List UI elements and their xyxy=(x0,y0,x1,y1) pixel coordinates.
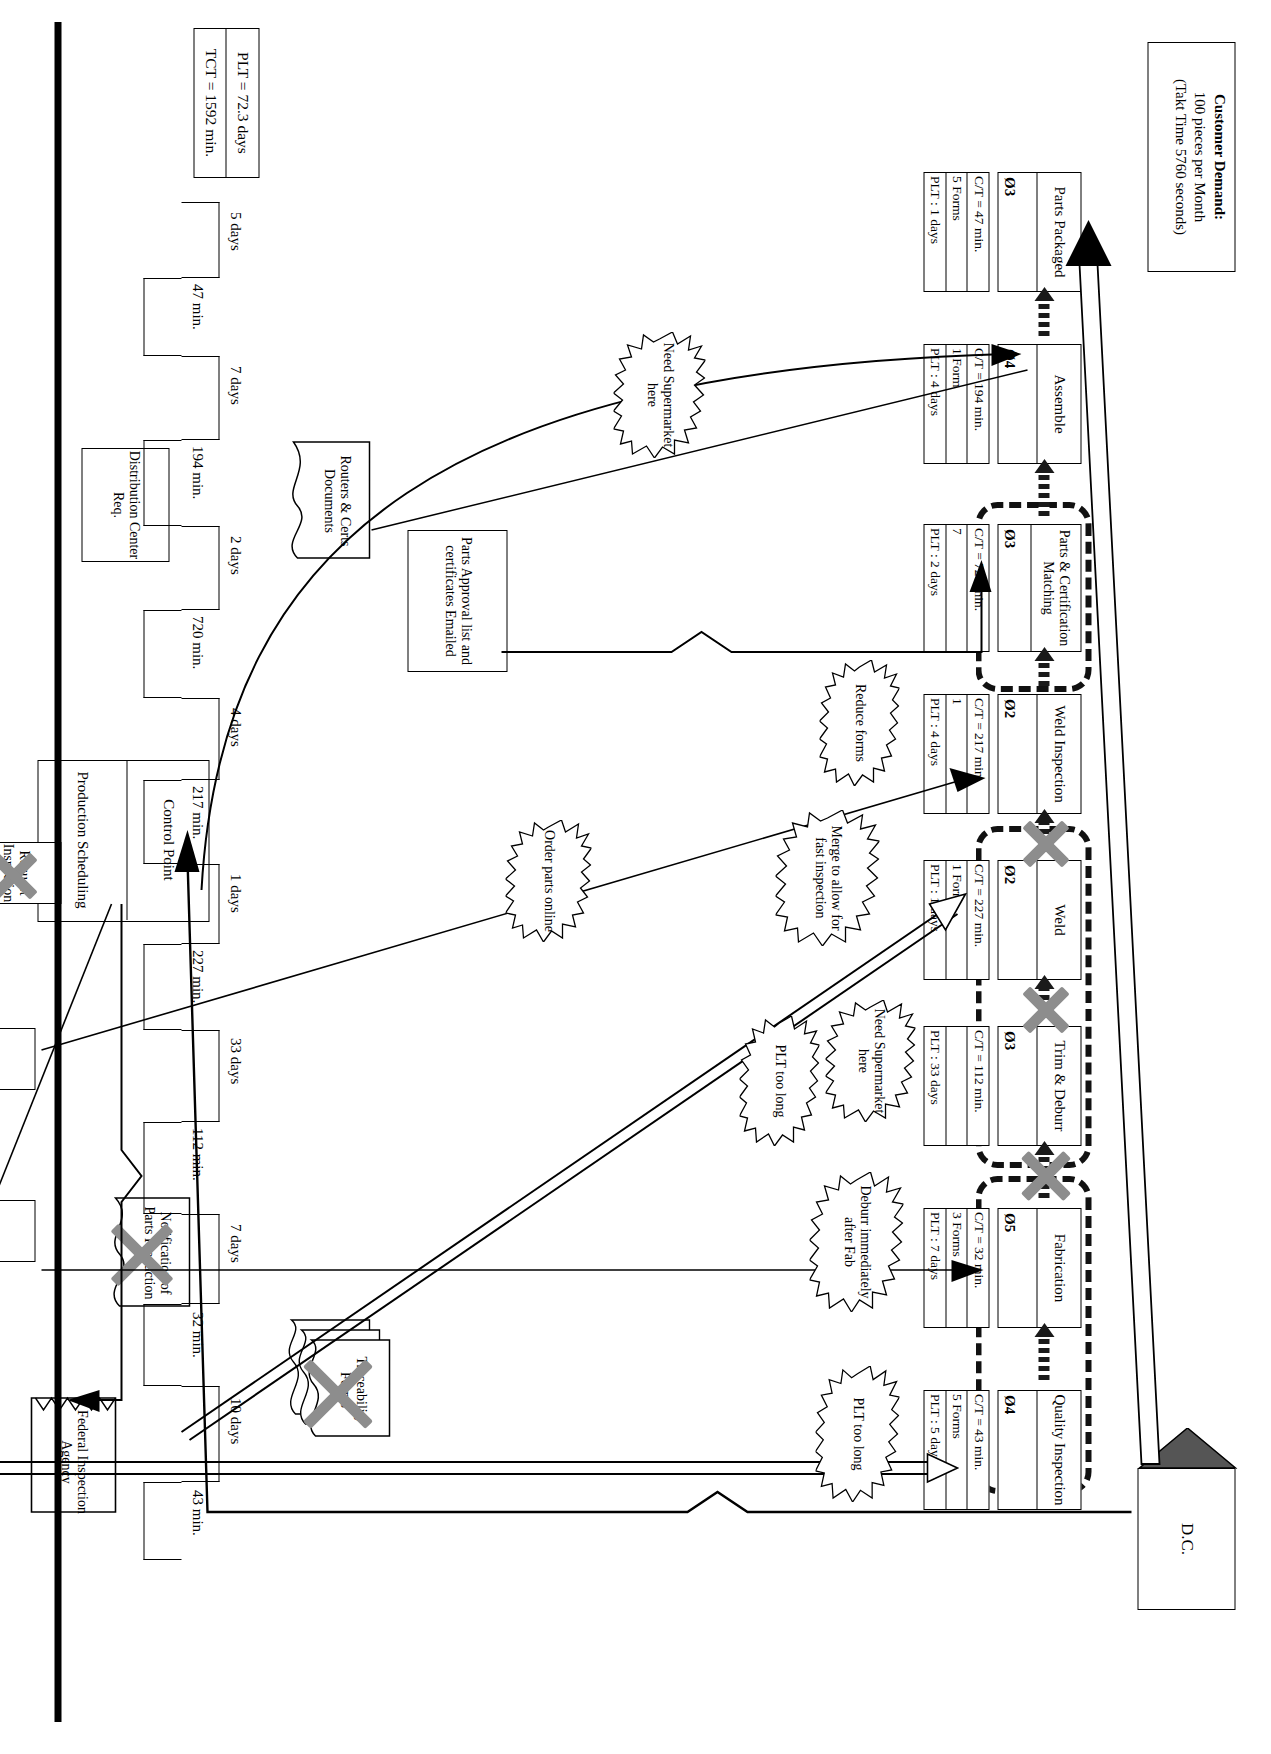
timeline-nva-seg-3 xyxy=(181,864,219,944)
kaizen-label: PLT too long xyxy=(849,1389,865,1478)
timeline-va-seg-1 xyxy=(143,1304,181,1386)
kaizen-burst-plt-too-long-1: PLT too long xyxy=(815,1366,899,1502)
data-ct: C/T = 47 min. xyxy=(966,173,988,291)
timeline-nva-seg-1 xyxy=(181,1214,219,1304)
data-box-parts-packaged: C/T = 47 min. 5 Forms PLT : 1 days xyxy=(923,172,989,292)
kaizen-label: Need Supermarket here xyxy=(854,1000,885,1122)
timeline-va-seg-5 xyxy=(143,610,181,698)
data-forms: 5 Forms xyxy=(945,173,967,291)
timeline-va-label-5: 720 min. xyxy=(188,616,205,669)
timeline-va-label-0: 43 min. xyxy=(188,1490,205,1536)
timeline-nva-label-6: 7 days xyxy=(226,366,243,405)
timeline-nva-label-5: 2 days xyxy=(226,536,243,575)
customer-demand-line1: 100 pieces per Month xyxy=(1192,92,1208,222)
timeline-nva-seg-2 xyxy=(181,1030,219,1122)
timeline-nva-label-0: 10 days xyxy=(226,1398,243,1444)
timeline-nva-seg-0 xyxy=(181,1386,219,1482)
vsm-page: Customer Demand: 100 pieces per Month (T… xyxy=(0,0,1271,1754)
timeline-va-seg-6 xyxy=(143,440,181,526)
timeline-nva-seg-7 xyxy=(181,202,219,278)
timeline-va-label-4: 217 min. xyxy=(188,786,205,839)
timeline-nva-seg-5 xyxy=(181,526,219,610)
timeline-va-label-3: 227 min. xyxy=(188,950,205,1003)
timeline-nva-label-1: 7 days xyxy=(226,1224,243,1263)
kaizen-burst-deburr-after-fab: Deburr immediately after Fab xyxy=(809,1172,903,1312)
vsm-stage: Customer Demand: 100 pieces per Month (T… xyxy=(0,0,1271,1754)
kaizen-label: Merge to allow for fast inspection xyxy=(811,810,842,946)
kaizen-label: Reduce forms xyxy=(851,676,867,770)
summary-tct: TCT = 1592 min. xyxy=(194,29,226,177)
kaizen-label: Order parts online xyxy=(540,822,556,940)
timeline-nva-label-7: 5 days xyxy=(226,212,243,251)
kaizen-burst-supermarket-1: Need Supermarket here xyxy=(825,1000,915,1122)
kaizen-label: Need Supermarket here xyxy=(643,332,674,458)
push-arrow-assemble-to-packaged xyxy=(1038,300,1049,336)
kaizen-burst-supermarket-2: Need Supermarket here xyxy=(613,332,705,458)
data-plt: PLT : 1 days xyxy=(924,173,945,291)
timeline-va-seg-3 xyxy=(143,944,181,1030)
timeline-nva-label-4: 4 days xyxy=(226,708,243,747)
kaizen-burst-order-parts-online: Order parts online xyxy=(505,820,591,942)
customer-demand-line2: (Takt Time 5760 seconds) xyxy=(1172,79,1188,235)
operator-count: Ø3 xyxy=(1000,177,1017,196)
timeline-nva-label-2: 33 days xyxy=(226,1038,243,1084)
timeline-va-label-1: 32 min. xyxy=(188,1312,205,1358)
timeline-nva-seg-6 xyxy=(181,356,219,440)
summary-plt: PLT = 72.3 days xyxy=(226,29,259,177)
kaizen-burst-reduce-forms: Reduce forms xyxy=(819,660,899,786)
timeline-va-seg-4 xyxy=(143,780,181,864)
customer-demand-heading: Customer Demand: xyxy=(1211,94,1227,220)
page-rail-bottom xyxy=(54,22,61,1722)
timeline-va-label-7: 47 min. xyxy=(188,284,205,330)
kaizen-burst-plt-too-long-2: PLT too long xyxy=(739,1016,819,1146)
timeline-va-seg-0 xyxy=(143,1482,181,1560)
timeline-summary-box: PLT = 72.3 days TCT = 1592 min. xyxy=(193,28,259,178)
kaizen-label: PLT too long xyxy=(771,1036,787,1125)
kaizen-label: Deburr immediately after Fab xyxy=(840,1172,871,1312)
timeline-nva-seg-4 xyxy=(181,698,219,780)
kaizen-burst-merge-fast-inspection: Merge to allow for fast inspection xyxy=(775,810,879,946)
timeline-va-label-6: 194 min. xyxy=(188,446,205,499)
timeline-va-seg-7 xyxy=(143,278,181,356)
timeline-va-seg-2 xyxy=(143,1122,181,1214)
timeline-nva-label-3: 1 days xyxy=(226,874,243,913)
timeline-va-label-2: 112 min. xyxy=(188,1128,205,1181)
timeline-ladder: 43 min. 10 days 32 min. 7 days 112 min. … xyxy=(95,96,181,1576)
